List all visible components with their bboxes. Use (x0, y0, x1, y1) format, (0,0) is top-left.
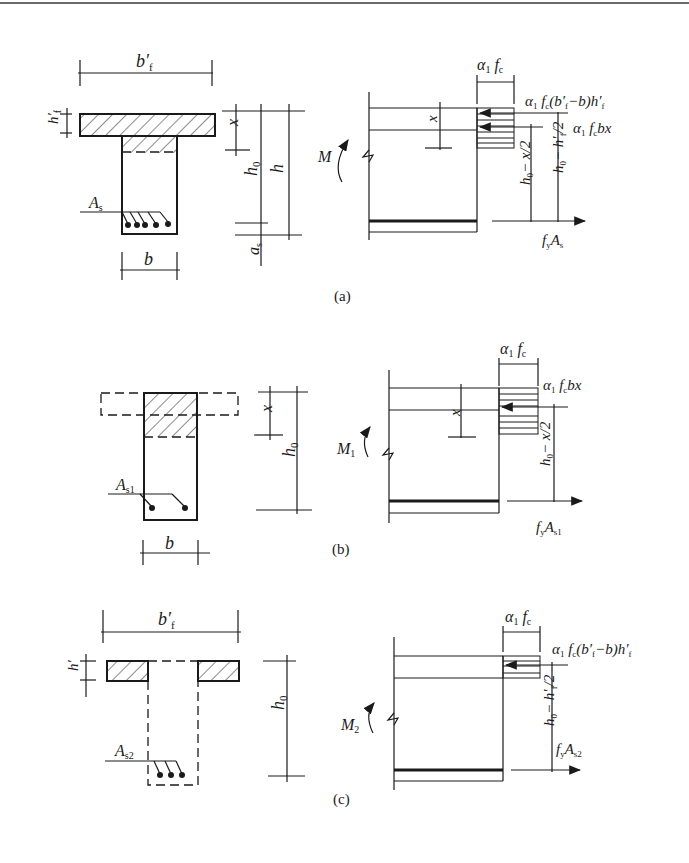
flange-force-label: α1 fc(b′f−b)h′f (525, 93, 604, 111)
rebar-dot (157, 772, 163, 778)
rebar-dot (165, 221, 171, 227)
rebar-dot (153, 222, 159, 228)
steel-area-label: As2 (114, 742, 134, 761)
panel-c-section: b′f h′ As2 h0 (65, 609, 305, 785)
flange-compression-zone (80, 114, 215, 136)
web-lever-arm-label: h0− x/2 (517, 140, 535, 185)
effective-depth-label: h0 (268, 695, 289, 710)
panel-b-section: As1 b x h0 (101, 386, 312, 565)
rebar-dot (125, 222, 131, 228)
web-force-label: α1 fcbx (573, 120, 612, 138)
flange-width-label: b′f (136, 51, 153, 73)
caption-b: (b) (332, 541, 350, 558)
steel-force-label: fyAs2 (556, 741, 582, 759)
rebar-dot (179, 772, 185, 778)
rebar-dot (168, 772, 174, 778)
panel-a: b′f h′f As (45, 51, 612, 305)
steel-force-label: fyAs1 (536, 519, 562, 537)
panel-a-stress: α1 fc x α1 fc(b′f−b)h′f α1 fcbx h0− x/2 … (317, 56, 612, 250)
moment-arrow (338, 140, 348, 182)
moment-arrow (364, 427, 370, 457)
stress-x-label: x (447, 409, 463, 417)
steel-force-label: fyAs (542, 232, 564, 250)
removed-web-outline (148, 681, 198, 785)
panel-a-section: b′f h′f As (45, 51, 305, 280)
panel-b: As1 b x h0 (101, 340, 582, 565)
flange-width-label: b′f (158, 609, 175, 631)
stress-intensity-label: α1 fc (477, 56, 504, 75)
rebar-dot (149, 505, 155, 511)
neutral-axis-depth-label: x (258, 405, 275, 413)
flange-thickness-label: h′f (45, 109, 63, 124)
web-force-label: α1 fcbx (543, 377, 582, 395)
stress-x-label: x (424, 115, 440, 123)
stress-intensity-label: α1 fc (505, 608, 532, 627)
panel-c-stress: α1 fc α1 fc(b′f−b)h′f h0− h′f/2 fyAs2 M2 (340, 608, 631, 790)
moment-arrow (369, 703, 374, 733)
web-width-label: b (144, 249, 153, 269)
neutral-axis-depth-label: x (224, 119, 241, 127)
moment-label: M1 (336, 440, 355, 459)
web-compression-zone (144, 393, 197, 437)
flange-lever-arm-label: h0− h′f/2 (541, 674, 559, 726)
panel-b-stress: α1 fc x α1 fcbx h0− x/2 fyAs1 M1 (336, 340, 582, 537)
rebar-dot (134, 222, 140, 228)
caption-c: (c) (333, 791, 350, 808)
right-flange-overhang (198, 661, 239, 681)
web-lever-arm-label: h0− x/2 (537, 421, 555, 466)
flange-lever-arm-label: h0− h′f/2 (550, 121, 568, 173)
effective-depth-label: h0 (241, 161, 262, 176)
steel-area-label: As (88, 194, 103, 213)
panel-c: b′f h′ As2 h0 (65, 608, 631, 808)
total-depth-label: h (267, 164, 287, 173)
rebar-dot (142, 222, 148, 228)
left-flange-overhang (107, 661, 148, 681)
t-beam-stress-diagram: b′f h′f As (0, 0, 689, 863)
moment-label: M (317, 148, 333, 165)
moment-label: M2 (340, 716, 359, 735)
caption-a: (a) (334, 288, 351, 305)
flange-force-label: α1 fc(b′f−b)h′f (552, 641, 631, 659)
steel-area-label: As1 (115, 476, 135, 495)
effective-depth-label: h0 (279, 442, 300, 457)
stress-intensity-label: α1 fc (500, 340, 527, 359)
rebar-dot (182, 505, 188, 511)
flange-thickness-label: h′ (65, 660, 81, 672)
web-compression-zone (122, 136, 177, 153)
web-width-label: b (165, 533, 174, 553)
cover-label: as (245, 243, 264, 255)
